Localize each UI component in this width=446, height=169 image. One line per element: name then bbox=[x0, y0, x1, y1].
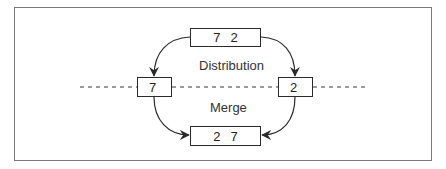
top-node-value-1: 7 bbox=[213, 30, 220, 45]
top-node-value-2: 2 bbox=[231, 30, 238, 45]
left-node-value: 7 bbox=[149, 80, 156, 95]
bottom-node-value-2: 7 bbox=[231, 129, 238, 144]
bottom-node: 2 7 bbox=[190, 126, 261, 146]
distribution-arrow-left bbox=[154, 37, 190, 76]
bottom-node-value-1: 2 bbox=[213, 129, 220, 144]
merge-arrow-right bbox=[262, 97, 295, 135]
merge-arrow-left bbox=[154, 97, 189, 135]
distribution-label: Distribution bbox=[199, 58, 264, 73]
left-node: 7 bbox=[137, 77, 172, 97]
top-node: 7 2 bbox=[190, 28, 261, 47]
distribution-arrow-right bbox=[261, 37, 295, 76]
right-node-value: 2 bbox=[290, 80, 297, 95]
right-node: 2 bbox=[278, 77, 313, 97]
merge-label: Merge bbox=[210, 100, 247, 115]
